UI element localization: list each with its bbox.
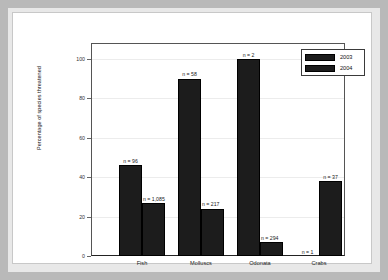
bar-2003-fish — [119, 165, 142, 256]
xtick-label-fish: Fish — [119, 260, 165, 266]
ytick-label-0: 0 — [69, 253, 85, 259]
screenshot-root: 0 20 40 60 80 100 Percentage of species … — [0, 0, 388, 280]
ytick-label-20: 20 — [69, 214, 85, 220]
bar-2004-fish — [142, 203, 165, 256]
bar-label-2003-molluscs: n = 58 — [169, 71, 210, 77]
ytick-mark-80 — [87, 98, 91, 99]
ytick-mark-40 — [87, 177, 91, 178]
ytick-label-80: 80 — [69, 95, 85, 101]
ytick-label-60: 60 — [69, 135, 85, 141]
bar-label-2004-crabs: n = 37 — [310, 174, 351, 180]
ytick-label-40: 40 — [69, 174, 85, 180]
bar-chart: 0 20 40 60 80 100 Percentage of species … — [13, 13, 373, 265]
bar-2003-odonata — [237, 59, 260, 256]
chart-legend: 2003 2004 — [301, 49, 365, 76]
legend-swatch-2004 — [305, 65, 335, 72]
bar-label-2003-odonata: n = 2 — [228, 52, 269, 58]
bar-label-2003-fish: n = 96 — [110, 158, 151, 164]
legend-label-2004: 2004 — [340, 65, 352, 72]
y-axis-label: Percentage of species threatened — [36, 48, 42, 168]
ytick-mark-20 — [87, 217, 91, 218]
legend-entry-2003: 2003 — [305, 52, 361, 62]
ytick-mark-0 — [87, 256, 91, 257]
ytick-label-100: 100 — [69, 56, 85, 62]
xtick-label-odonata: Odonata — [237, 260, 283, 266]
bar-2004-molluscs — [201, 209, 224, 256]
bar-label-2004-odonata: n = 294 — [261, 235, 303, 241]
xtick-label-crabs: Crabs — [296, 260, 342, 266]
bar-2004-odonata — [260, 242, 283, 256]
legend-entry-2004: 2004 — [305, 63, 361, 73]
xtick-label-molluscs: Molluscs — [178, 260, 224, 266]
ytick-mark-100 — [87, 59, 91, 60]
figure-card: 0 20 40 60 80 100 Percentage of species … — [12, 12, 372, 264]
bar-2004-crabs — [319, 181, 342, 256]
bar-2003-molluscs — [178, 79, 201, 257]
legend-swatch-2003 — [305, 54, 335, 61]
legend-label-2003: 2003 — [340, 54, 352, 61]
ytick-mark-60 — [87, 138, 91, 139]
